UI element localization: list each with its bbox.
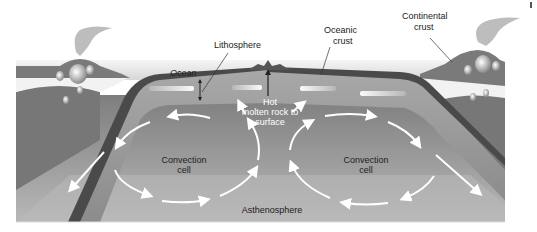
label-oceanic-crust-line1: Oceanic — [324, 25, 357, 35]
left-volcano-plume — [75, 26, 112, 56]
left-magma-chamber — [69, 64, 87, 84]
label-convection-right-line1: Convection — [343, 155, 388, 165]
corner-mark — [530, 2, 532, 8]
label-convection-left-line1: Convection — [161, 155, 206, 165]
continental-crust-leader — [430, 38, 452, 62]
right-magma-chamber — [475, 55, 491, 73]
label-oceanic-crust-line2: crust — [333, 36, 353, 46]
label-ocean: Ocean — [170, 68, 197, 78]
label-convection-right-line2: cell — [359, 165, 373, 175]
label-continental-crust-line2: crust — [414, 22, 434, 32]
label-hot-line2: molten rock to — [242, 107, 299, 117]
label-continental-crust-line1: Continental — [402, 11, 448, 21]
right-volcano-plume — [476, 18, 520, 47]
label-hot-line1: Hot — [263, 97, 277, 107]
label-asthenosphere: Asthenosphere — [242, 205, 303, 215]
label-convection-left-line2: cell — [177, 165, 191, 175]
label-hot-line3: surface — [255, 117, 285, 127]
label-lithosphere: Lithosphere — [214, 40, 261, 50]
